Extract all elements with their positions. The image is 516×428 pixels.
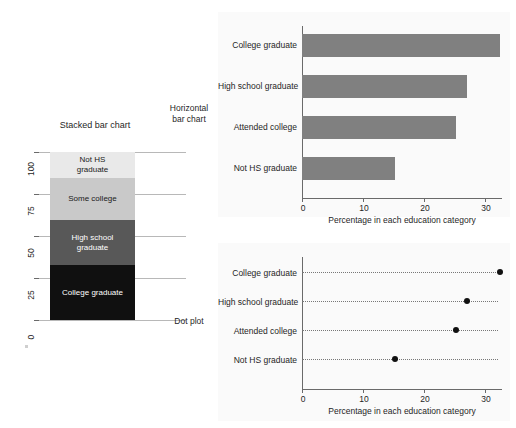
ytick-label-75: 75 (26, 195, 36, 227)
xtick-label-20: 20 (410, 203, 440, 213)
xtick-mark-0 (302, 198, 303, 202)
stacked-segment-high-school-graduate: High school graduate (50, 220, 135, 265)
bar-attended-college (302, 116, 456, 139)
stacked-segment-label: College graduate (62, 288, 123, 298)
category-label-college-graduate: College graduate (218, 40, 297, 50)
ytick-label-0: 0 (26, 321, 36, 353)
bar-high-school-graduate (302, 75, 467, 98)
xtick-label-30: 30 (471, 203, 501, 213)
stacked-segment-college-graduate: College graduate (50, 265, 135, 320)
x-axis-label: Percentage in each education category (262, 406, 516, 416)
figure-three-education-charts: Stacked bar chart 100 75 50 25 0 College… (0, 0, 516, 428)
category-label-not-hs-graduate: Not HS graduate (218, 355, 297, 365)
bar-not-hs-graduate (302, 157, 395, 180)
stacked-segment-some-college: Some college (50, 178, 135, 221)
xtick-label-0: 0 (288, 203, 318, 213)
horizontal-bar-chart-panel: 0 10 20 30 Percentage in each education … (218, 12, 510, 217)
xtick-mark-30 (485, 198, 486, 202)
x-axis-label: Percentage in each education category (262, 215, 516, 225)
dot-plot-panel-label: Dot plot (152, 316, 226, 327)
dot-not-hs-graduate (392, 356, 399, 363)
dot-college-graduate (497, 269, 504, 276)
xtick-label-10: 10 (349, 394, 379, 404)
ytick-label-100: 100 (26, 153, 36, 185)
guide-line-college-graduate (302, 272, 498, 274)
xtick-mark-30 (485, 389, 486, 393)
xtick-mark-10 (363, 389, 364, 393)
xtick-label-20: 20 (410, 394, 440, 404)
ytick-label-50: 50 (26, 237, 36, 269)
y-axis-line (302, 257, 303, 389)
guide-line-not-hs-graduate (302, 359, 498, 361)
horizontal-bar-chart-panel-label: Horizontal bar chart (152, 103, 226, 124)
guide-line-attended-college (302, 330, 498, 332)
stray-mark (25, 345, 28, 348)
xtick-mark-20 (424, 198, 425, 202)
x-axis-line (302, 198, 502, 199)
xtick-label-10: 10 (349, 203, 379, 213)
bar-college-graduate (302, 34, 500, 57)
dot-plot-panel: 0 10 20 30 Percentage in each education … (218, 243, 510, 421)
stacked-segment-label: High school graduate (72, 233, 114, 253)
xtick-label-0: 0 (288, 394, 318, 404)
dot-attended-college (453, 327, 460, 334)
stacked-segment-label: Some college (68, 194, 116, 204)
category-label-college-graduate: College graduate (218, 268, 297, 278)
stacked-segment-label: Not HS graduate (77, 155, 109, 175)
category-label-attended-college: Attended college (218, 326, 297, 336)
x-axis-line (302, 389, 502, 390)
category-label-high-school-graduate: High school graduate (218, 81, 297, 91)
xtick-label-30: 30 (471, 394, 501, 404)
xtick-mark-20 (424, 389, 425, 393)
dot-high-school-graduate (464, 298, 471, 305)
stacked-segment-not-hs-graduate: Not HS graduate (50, 152, 135, 178)
category-label-attended-college: Attended college (218, 122, 297, 132)
xtick-mark-0 (302, 389, 303, 393)
category-label-high-school-graduate: High school graduate (218, 297, 297, 307)
xtick-mark-10 (363, 198, 364, 202)
ytick-label-25: 25 (26, 279, 36, 311)
category-label-not-hs-graduate: Not HS graduate (218, 163, 297, 173)
